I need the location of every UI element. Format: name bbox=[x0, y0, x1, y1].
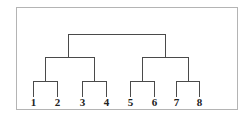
merge-5-6-link bbox=[131, 82, 155, 98]
leaf-labels: 12345678 bbox=[31, 96, 203, 108]
merge-56-78-link bbox=[143, 58, 189, 82]
leaf-label-1: 1 bbox=[31, 96, 37, 108]
merge-1-2-link bbox=[34, 82, 58, 98]
dendrogram: 12345678 bbox=[0, 0, 248, 116]
leaf-label-5: 5 bbox=[128, 96, 134, 108]
leaf-label-3: 3 bbox=[80, 96, 86, 108]
dendrogram-links bbox=[34, 35, 200, 98]
leaf-label-6: 6 bbox=[152, 96, 158, 108]
merge-root-link bbox=[69, 35, 166, 58]
leaf-label-7: 7 bbox=[174, 96, 180, 108]
leaf-label-8: 8 bbox=[197, 96, 203, 108]
merge-3-4-link bbox=[83, 82, 107, 98]
merge-12-34-link bbox=[46, 58, 95, 82]
leaf-label-2: 2 bbox=[55, 96, 61, 108]
merge-7-8-link bbox=[177, 82, 200, 98]
leaf-label-4: 4 bbox=[104, 96, 110, 108]
plot-frame bbox=[17, 8, 238, 110]
